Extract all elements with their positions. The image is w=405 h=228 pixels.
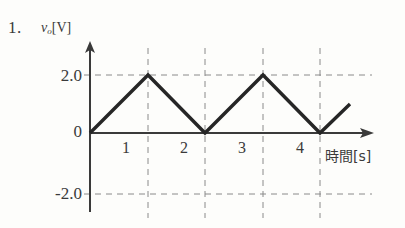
triangular-wave-line [90,75,350,133]
plot-area [0,0,405,228]
waveform-trace [90,75,350,133]
axis-lines [85,41,374,212]
grid-lines-horizontal [84,75,372,194]
figure-container: 1. vo[V] 時間[s] 2.0 0 -2.0 1 2 3 4 [0,0,405,228]
